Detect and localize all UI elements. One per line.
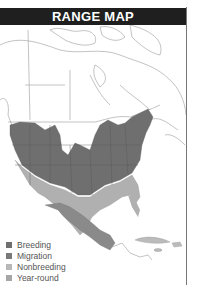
year-round-swatch-icon <box>6 275 12 281</box>
breeding-swatch-icon <box>6 242 12 248</box>
legend-label: Migration <box>17 251 52 261</box>
map-title: RANGE MAP <box>0 8 186 25</box>
legend-item-breeding: Breeding <box>6 239 66 250</box>
nonbreeding-swatch-icon <box>6 264 12 270</box>
legend-label: Nonbreeding <box>17 262 66 272</box>
range-map <box>0 25 186 260</box>
legend-item-nonbreeding: Nonbreeding <box>6 261 66 272</box>
legend-label: Year-round <box>17 273 59 283</box>
map-legend: Breeding Migration Nonbreeding Year-roun… <box>6 239 66 283</box>
legend-label: Breeding <box>17 240 51 250</box>
migration-swatch-icon <box>6 253 12 259</box>
caribbean <box>135 237 182 251</box>
legend-item-year-round: Year-round <box>6 272 66 283</box>
legend-item-migration: Migration <box>6 250 66 261</box>
